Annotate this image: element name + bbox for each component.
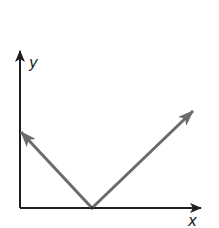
x-axis-label: x	[187, 212, 197, 228]
right-vector-arrow	[92, 111, 193, 208]
y-axis-label: y	[28, 54, 39, 72]
left-vector-arrow	[21, 132, 92, 208]
coordinate-diagram: y x	[0, 0, 219, 228]
vertex-point	[90, 206, 93, 209]
